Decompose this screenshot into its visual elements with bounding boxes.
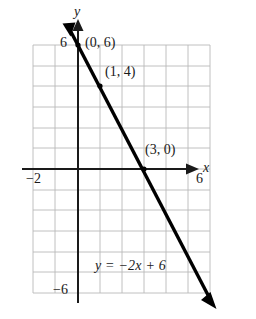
point-1-4-marker xyxy=(97,83,102,88)
line-arrow-down-icon xyxy=(201,292,217,309)
y-tick-label-6: 6 xyxy=(60,36,67,50)
y-axis-label: y xyxy=(74,5,80,19)
point-3-0-marker xyxy=(141,166,146,171)
x-axis-label: x xyxy=(203,161,209,175)
y-tick-label-neg6: −6 xyxy=(53,283,68,297)
equation-label: y = −2x + 6 xyxy=(95,259,166,273)
x-axis xyxy=(22,164,199,175)
point-label-1-4: (1, 4) xyxy=(105,65,135,79)
point-0-6-marker xyxy=(75,42,80,47)
point-label-0-6: (0, 6) xyxy=(85,36,115,50)
graph-figure: y x 6 −6 −2 6 (0, 6) (1, 4) (3, 0) y = −… xyxy=(0,0,256,319)
x-tick-label-6: 6 xyxy=(196,172,203,186)
x-tick-label-neg2: −2 xyxy=(26,172,41,186)
point-label-3-0: (3, 0) xyxy=(145,143,175,157)
y-axis xyxy=(73,19,84,303)
